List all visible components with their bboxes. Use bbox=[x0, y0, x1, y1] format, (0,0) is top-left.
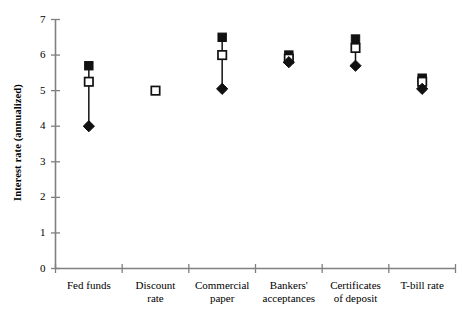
x-category-label: Commercial paper bbox=[189, 279, 256, 306]
y-tick-label: 4 bbox=[28, 120, 46, 131]
marker-filled-square bbox=[351, 35, 359, 43]
marker-filled-diamond bbox=[217, 83, 228, 94]
marker-open-square bbox=[351, 44, 359, 52]
marker-filled-diamond bbox=[83, 121, 94, 132]
y-tick-label: 7 bbox=[28, 14, 46, 25]
plot-area bbox=[0, 0, 462, 309]
x-category-label: Bankers' acceptances bbox=[256, 279, 323, 306]
marker-open-square bbox=[151, 86, 159, 94]
y-tick-label: 1 bbox=[28, 227, 46, 238]
y-tick-label: 2 bbox=[28, 191, 46, 202]
x-category-label: Certificates of deposit bbox=[322, 279, 389, 306]
y-tick-label: 0 bbox=[28, 263, 46, 274]
y-tick-label: 5 bbox=[28, 85, 46, 96]
interest-rate-chart: Interest rate (annualized) 01234567 Fed … bbox=[0, 0, 462, 309]
y-tick-label: 6 bbox=[28, 49, 46, 60]
marker-open-square bbox=[218, 51, 226, 59]
marker-filled-square bbox=[218, 33, 226, 41]
y-tick-label: 3 bbox=[28, 156, 46, 167]
series-group bbox=[83, 33, 428, 132]
marker-filled-square bbox=[85, 62, 93, 70]
x-category-label: Discount rate bbox=[122, 279, 189, 306]
x-category-label: Fed funds bbox=[56, 279, 123, 293]
marker-filled-diamond bbox=[350, 60, 361, 71]
marker-open-square bbox=[85, 78, 93, 86]
x-category-label: T-bill rate bbox=[389, 279, 456, 293]
axis-group bbox=[51, 19, 456, 273]
